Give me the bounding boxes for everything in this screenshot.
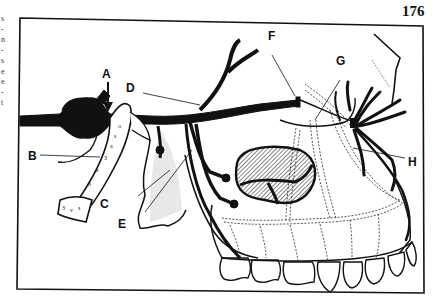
label-f: F — [268, 29, 275, 43]
label-e: E — [118, 217, 126, 231]
svg-text:3: 3 — [104, 155, 107, 161]
svg-text:v: v — [70, 207, 73, 213]
label-c: C — [100, 197, 109, 211]
infraorbital-foramen — [350, 118, 358, 128]
teeth — [220, 242, 416, 292]
shaded-region — [150, 130, 182, 222]
svg-text:a: a — [110, 143, 113, 149]
label-a: A — [102, 67, 111, 81]
svg-text:e: e — [96, 167, 99, 173]
anatomy-diagram: osa 3eb 3vs A B C D E F G — [0, 0, 437, 306]
maxillary-sinus — [236, 147, 315, 204]
label-d: D — [126, 81, 135, 95]
label-h: H — [408, 155, 417, 169]
svg-text:3: 3 — [62, 205, 65, 211]
nasal-dotted-outline — [372, 60, 390, 88]
label-b: B — [28, 149, 37, 163]
svg-text:b: b — [88, 181, 91, 187]
svg-text:o: o — [118, 123, 121, 129]
label-g: G — [336, 54, 345, 68]
